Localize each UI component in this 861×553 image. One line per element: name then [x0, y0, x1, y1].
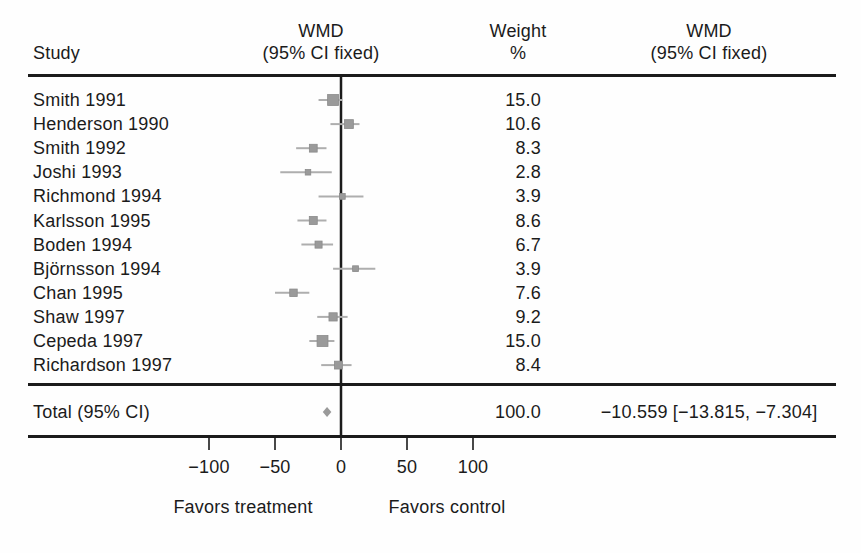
effect-square	[305, 170, 311, 176]
effect-square	[315, 241, 322, 248]
effect-square	[328, 95, 339, 106]
effect-square	[353, 266, 359, 272]
total-weight: 100.0	[440, 400, 541, 424]
favors-control-label: Favors control	[337, 496, 557, 518]
total-ci-value: −10.559 [−13.815, −7.304]	[578, 400, 840, 424]
effect-square	[329, 313, 337, 321]
effect-square	[339, 194, 345, 200]
effect-square	[290, 289, 297, 296]
forest-plot-figure: Study WMD (95% CI fixed) Weight % WMD (9…	[0, 0, 861, 553]
favors-treatment-label: Favors treatment	[133, 496, 353, 518]
total-label: Total (95% CI)	[33, 400, 150, 424]
effect-square	[317, 336, 328, 347]
effect-square	[344, 120, 353, 129]
total-diamond	[323, 407, 332, 417]
axis-tick-label: 100	[433, 456, 513, 478]
effect-square	[334, 361, 342, 369]
effect-square	[309, 217, 317, 225]
effect-square	[309, 144, 317, 152]
